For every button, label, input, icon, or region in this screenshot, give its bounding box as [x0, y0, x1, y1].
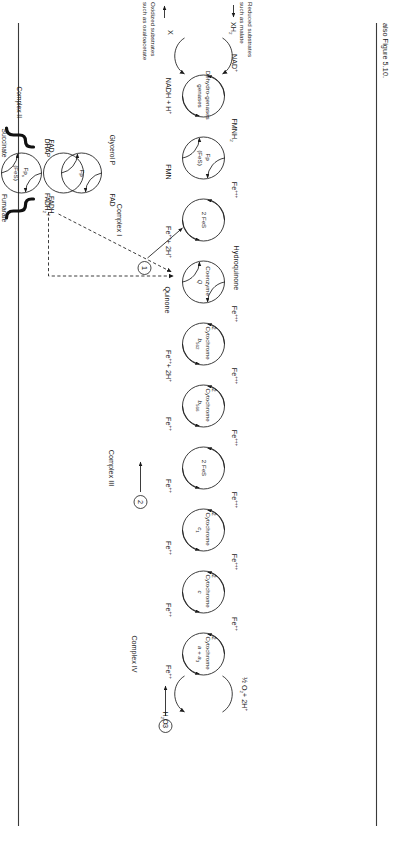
diagram-stage: also Figure 5.10. XH2 X Reduced substrat… — [0, 0, 393, 852]
arc-substrate-out — [174, 38, 184, 74]
label-hydroquinone: Hydroquinone — [231, 246, 240, 291]
label-oxygen-in: ½ O2+ 2H+ — [238, 677, 248, 711]
label-fe2-aa3-right: Fe++ — [163, 665, 172, 679]
node-2fes-a-label: 2 FeS — [200, 212, 207, 229]
label-fe3-a: Fe+++ — [229, 182, 238, 199]
label-fe2-c: Fe++ — [163, 603, 172, 617]
node-cyt-c-label: Cytochrome c — [197, 574, 212, 609]
node-cyt-b566-n: 2 — [210, 388, 217, 392]
node-cyt-aa3-n: 2 — [210, 636, 217, 640]
note-oxidized-substrates: Oxidized substratessuch as oxaloacetate — [141, 2, 156, 61]
label-complex-ii: Complex II — [14, 86, 22, 118]
label-quinone: Quinone — [162, 286, 171, 313]
node-fp-fes: Fp (FeS) — [182, 137, 224, 179]
page-caption: also Figure 5.10. — [380, 23, 389, 78]
node-dehydrogenases: Dehydro-genases genases — [182, 71, 224, 122]
label-fe2-2h-b562: Fe+++ 2H+ — [163, 350, 172, 382]
node-cyt-b562-label: Cytochrome b562 — [195, 326, 212, 361]
node-2fes-a: 2 FeS — [182, 199, 224, 241]
node-cyt-c: Cytochrome c 2 — [182, 571, 224, 613]
coupling-site-3: 3 — [159, 686, 172, 733]
note-reduced-substrates: Reduced substratessuch as malate — [238, 2, 253, 57]
label-fe3-b562: Fe+++ — [229, 306, 238, 323]
label-water-out: H2O — [159, 711, 169, 725]
arc-water-out — [174, 676, 184, 712]
label-x-oxidized: X — [165, 30, 174, 35]
node-cyt-c1-n: 2 — [210, 512, 217, 516]
node-cyt-c1-label: Cytochrome c1 — [195, 512, 212, 547]
dashed-link-glycerolp-to-q — [48, 212, 173, 276]
node-fp-fes-label: Fp (FeS) — [197, 150, 212, 165]
label-fe2-aa3-left: Fe++ — [229, 617, 238, 631]
node-coenzyme-q: Coenzyme Q — [182, 261, 224, 303]
label-xh2: XH2 — [227, 22, 237, 35]
label-fe3-b566: Fe+++ — [229, 368, 238, 385]
label-fe2-c1: Fe++ — [163, 541, 172, 555]
svg-text:2: 2 — [135, 500, 144, 504]
node-coenzyme-q-label: Coenzyme Q — [197, 266, 212, 297]
node-2fes-b: 2 FeS — [182, 447, 224, 489]
node-cyt-c1: Cytochrome c1 2 — [182, 509, 224, 551]
label-complex-iv: Complex IV — [129, 635, 138, 672]
arc-oxygen-in — [222, 676, 232, 712]
node-cyt-b566-label: Cytochrome b566 — [195, 388, 212, 423]
coupling-site-1: 1 — [138, 228, 183, 275]
node-dehydrogenases-label: Dehydro-genases genases — [197, 71, 212, 122]
node-cyt-aa3-label: Cytochrome a + a3 — [195, 636, 212, 671]
label-fad-succinate: FAD — [47, 140, 54, 153]
label-fe3-c: Fe+++ — [229, 554, 238, 571]
label-fe3-c1: Fe+++ — [229, 492, 238, 509]
node-fps-fes-label: Fps (FeS) — [12, 165, 29, 180]
node-cyt-b562: Cytochrome b562 2 — [182, 323, 224, 365]
label-nad-plus: NAD+ — [229, 54, 238, 72]
label-fmn: FMN — [163, 164, 172, 180]
node-cyt-b562-n: 2 — [210, 326, 217, 330]
node-succinate-cycle: Fps (FeS) — [1, 153, 41, 193]
label-glycerol-p: Glycerol P — [107, 135, 115, 166]
label-fe2-b566: Fe++ — [163, 417, 172, 431]
label-nadh-h: NADH + H+ — [163, 78, 172, 115]
label-fmnh2: FMNH2 — [228, 118, 238, 142]
coupling-site-2: 2 — [134, 462, 147, 509]
label-fe2-fes-b: Fe++ — [163, 479, 172, 493]
label-complex-iii: Complex III — [106, 450, 115, 486]
svg-text:1: 1 — [139, 266, 148, 270]
label-fe2-2h-a: Fe+++ 2H+ — [163, 226, 172, 258]
node-cyt-c-n: 2 — [210, 574, 217, 578]
node-cyt-aa3: Cytochrome a + a3 2 — [182, 633, 224, 675]
node-fp-glycerol-label: Fp — [78, 169, 85, 177]
node-cyt-b566: Cytochrome b566 2 — [182, 385, 224, 427]
node-fp-glycerol: Fp — [61, 153, 101, 193]
label-complex-i: Complex I — [114, 204, 123, 236]
node-2fes-b-label: 2 FeS — [200, 460, 207, 477]
label-fe3-fes-b: Fe+++ — [229, 430, 238, 447]
